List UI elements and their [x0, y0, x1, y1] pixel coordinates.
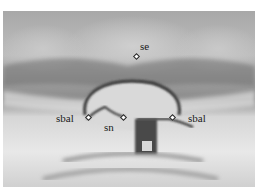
landmark-sbal-left-label: sbal: [56, 113, 74, 124]
face-photo: [3, 11, 255, 187]
figure: se sbal sn sbal: [0, 0, 258, 187]
face-contours: [3, 11, 255, 187]
landmark-se-label: se: [140, 41, 149, 52]
landmark-sbal-right-label: sbal: [188, 113, 206, 124]
landmark-sn-label: sn: [104, 122, 114, 133]
